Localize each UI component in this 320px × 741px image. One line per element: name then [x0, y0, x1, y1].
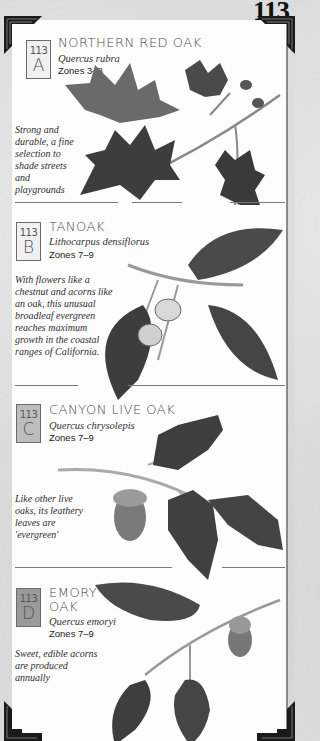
- common-name: Northern Red Oak: [58, 36, 202, 50]
- red-oak-branch-illustration: [60, 55, 285, 205]
- badge-letter: A: [33, 57, 45, 74]
- badge-letter: C: [23, 421, 35, 438]
- section-divider: [230, 202, 285, 203]
- emory-oak-branch-illustration: [90, 580, 285, 741]
- section-divider: [15, 567, 172, 568]
- entry-badge: 113 B: [16, 222, 41, 261]
- section-divider: [222, 567, 285, 568]
- badge-number: 113: [30, 46, 48, 56]
- badge-number: 113: [20, 594, 38, 604]
- tanoak-branch-illustration: [88, 210, 288, 400]
- hardiness-zones: Zones 7–9: [49, 628, 94, 639]
- section-divider: [15, 202, 118, 203]
- badge-number: 113: [20, 410, 38, 420]
- section-divider: [132, 202, 182, 203]
- corner-ornament-bottom-left-icon: [4, 701, 42, 741]
- corner-ornament-top-right-icon: [257, 16, 295, 54]
- badge-number: 113: [20, 228, 38, 238]
- badge-letter: B: [23, 239, 34, 256]
- badge-letter: D: [22, 605, 35, 622]
- entry-badge: 113 A: [26, 40, 51, 79]
- canyon-live-oak-branch-illustration: [58, 410, 288, 585]
- entry-badge: 113 C: [16, 404, 41, 443]
- section-divider: [128, 385, 285, 386]
- entry-badge: 113 D: [16, 588, 41, 627]
- section-divider: [15, 385, 78, 386]
